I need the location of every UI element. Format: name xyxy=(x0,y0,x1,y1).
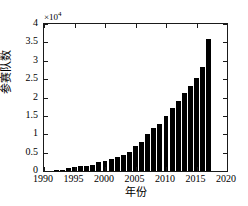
bar xyxy=(157,124,162,171)
x-tick-label: 1990 xyxy=(33,174,53,184)
y-tick-mark-right xyxy=(223,153,227,154)
bar xyxy=(170,108,175,171)
bar xyxy=(84,166,89,171)
bar xyxy=(66,168,71,171)
bar xyxy=(60,170,65,171)
x-tick-mark-top xyxy=(75,24,76,28)
bar xyxy=(200,67,205,171)
y-tick-label: 1.5 xyxy=(26,110,39,120)
bar xyxy=(96,162,101,171)
bar xyxy=(206,39,211,171)
y-tick-mark xyxy=(44,79,48,80)
x-tick-mark-top xyxy=(136,24,137,28)
bar xyxy=(139,142,144,171)
x-tick-mark-top xyxy=(227,24,228,28)
x-tick-mark xyxy=(105,167,106,171)
y-tick-mark-right xyxy=(223,42,227,43)
x-tick-label: 2000 xyxy=(94,174,114,184)
bar xyxy=(54,170,59,171)
bar xyxy=(127,152,132,171)
bar xyxy=(115,157,120,171)
bar xyxy=(109,159,114,171)
x-tick-label: 2010 xyxy=(155,174,175,184)
y-tick-mark-right xyxy=(223,171,227,172)
bar xyxy=(121,155,126,171)
x-tick-label: 2020 xyxy=(216,174,236,184)
bars-layer xyxy=(44,24,227,171)
bar xyxy=(151,128,156,171)
y-tick-mark-right xyxy=(223,116,227,117)
bar xyxy=(90,165,95,171)
y-tick-mark xyxy=(44,98,48,99)
y-tick-label: 0.5 xyxy=(26,147,39,157)
x-tick-mark-top xyxy=(166,24,167,28)
y-tick-mark xyxy=(44,61,48,62)
y-tick-mark-right xyxy=(223,79,227,80)
y-tick-mark xyxy=(44,134,48,135)
y-tick-labels: 00.511.522.533.54 xyxy=(0,23,41,172)
plot-area xyxy=(43,23,228,172)
bar xyxy=(194,78,199,171)
bar xyxy=(78,166,83,171)
y-tick-label: 3.5 xyxy=(26,36,39,46)
y-tick-label: 4 xyxy=(33,18,38,28)
x-tick-label: 1995 xyxy=(64,174,84,184)
x-tick-mark xyxy=(166,167,167,171)
y-tick-mark xyxy=(44,116,48,117)
x-tick-label: 2005 xyxy=(125,174,145,184)
x-tick-mark xyxy=(44,167,45,171)
x-tick-mark xyxy=(197,167,198,171)
chart-figure: ×104 参赛队数 00.511.522.533.54 199019952000… xyxy=(0,0,248,206)
x-tick-mark xyxy=(75,167,76,171)
x-tick-mark xyxy=(227,167,228,171)
bar xyxy=(176,101,181,171)
x-tick-mark-top xyxy=(197,24,198,28)
x-tick-label: 2015 xyxy=(186,174,206,184)
y-tick-label: 2.5 xyxy=(26,73,39,83)
exponent-power: 4 xyxy=(58,10,62,18)
y-tick-label: 1 xyxy=(33,128,38,138)
y-tick-mark xyxy=(44,153,48,154)
y-tick-mark-right xyxy=(223,61,227,62)
exponent-mantissa: ×10 xyxy=(44,12,58,22)
y-tick-mark-right xyxy=(223,134,227,135)
y-axis-exponent-label: ×104 xyxy=(44,11,62,22)
x-tick-mark xyxy=(136,167,137,171)
y-tick-mark-right xyxy=(223,98,227,99)
y-tick-label: 3 xyxy=(33,55,38,65)
bar xyxy=(145,134,150,171)
x-axis-title: 年份 xyxy=(43,187,228,198)
bar xyxy=(164,116,169,171)
y-tick-mark xyxy=(44,42,48,43)
bar xyxy=(182,93,187,171)
x-tick-mark-top xyxy=(44,24,45,28)
x-tick-mark-top xyxy=(105,24,106,28)
bar xyxy=(188,86,193,171)
y-tick-label: 2 xyxy=(33,92,38,102)
y-tick-mark xyxy=(44,171,48,172)
